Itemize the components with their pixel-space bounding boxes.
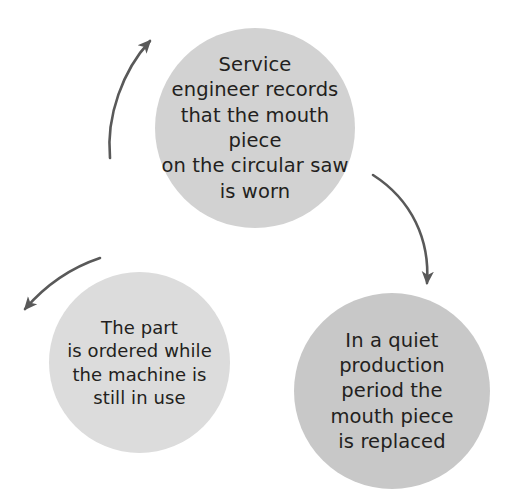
mouth-piece-replaced-step[interactable]: In a quiet production period the mouth p…: [294, 293, 490, 489]
service-engineer-records-step[interactable]: Service engineer records that the mouth …: [155, 28, 355, 228]
part-ordered-label: The part is ordered while the machine is…: [61, 316, 218, 410]
arrow-order-to-record: [109, 41, 150, 158]
part-ordered-step[interactable]: The part is ordered while the machine is…: [49, 272, 230, 453]
service-engineer-records-label: Service engineer records that the mouth …: [155, 52, 355, 204]
mouth-piece-replaced-label: In a quiet production period the mouth p…: [324, 328, 459, 455]
process-cycle-diagram: Service engineer records that the mouth …: [0, 0, 511, 495]
arrow-record-to-replace: [373, 175, 427, 283]
